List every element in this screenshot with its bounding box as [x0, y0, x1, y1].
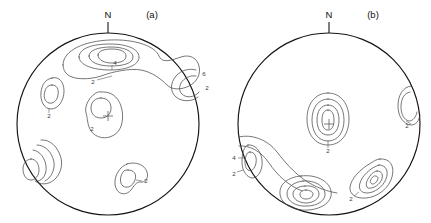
contour-label-a-east-outer: 2: [205, 84, 209, 91]
leader-b-southeast: [354, 192, 359, 196]
panel-label-a: (a): [146, 9, 158, 20]
center-cross-a: [103, 111, 113, 121]
contour-label-b-east: 2: [405, 122, 409, 129]
contour-label-a-se-min: 2: [144, 177, 148, 184]
contour-label-a-east-core: 6: [202, 70, 206, 77]
north-label-a: N: [105, 9, 112, 20]
leader-b-west-outer: [237, 170, 243, 172]
contour-label-b-central: 2: [326, 147, 330, 154]
contour-b-central-2: [307, 93, 349, 145]
panel-label-b: (b): [367, 9, 379, 20]
contour-a-sw-margin-4: [33, 150, 46, 181]
contour-b-central-4: [317, 105, 339, 135]
stereonet-panel-a: N (a) 2 4 6 2 2 2 2: [0, 0, 216, 223]
contour-b-west-core-inner: [245, 152, 256, 171]
contour-label-b-west-core: 4: [232, 154, 236, 161]
primitive-circle-a: [17, 33, 199, 215]
contour-label-a-central: 2: [90, 125, 94, 132]
contour-label-a-north-girdle: 2: [91, 78, 95, 85]
stereonet-panel-b: N (b) 2 2 4 2 2: [215, 0, 431, 223]
contour-a-sw-margin-2: [35, 140, 62, 184]
contour-a-se-min-2-outer: [115, 163, 148, 194]
contour-label-b-southeast: 2: [349, 195, 353, 202]
contour-b-west-band-2: [239, 136, 337, 193]
north-label-b: N: [326, 9, 333, 20]
contour-label-a-north-max: 4: [113, 59, 117, 66]
contour-a-se-min-2-inner: [120, 170, 135, 187]
contour-a-nw-min-2-inner: [44, 85, 58, 103]
contour-b-southeast-core: [370, 176, 378, 184]
contour-label-a-nw-min: 2: [47, 112, 51, 119]
contour-a-north-max-4-core: [98, 49, 126, 63]
contour-b-central-core: [322, 110, 334, 130]
contour-b-southeast-4: [366, 171, 382, 188]
stereonet-figure: N (a) 2 4 6 2 2 2 2: [0, 0, 431, 223]
leader-a-se-min: [136, 180, 142, 181]
contour-a-sw-margin-core: [23, 159, 39, 180]
contour-b-south-central-4: [293, 186, 319, 203]
contour-label-b-west-outer: 2: [232, 170, 236, 177]
contour-b-southeast-2b: [359, 165, 387, 193]
contour-b-east-margin-2-inner: [401, 92, 417, 121]
contour-a-east-margin-6: [180, 76, 199, 97]
